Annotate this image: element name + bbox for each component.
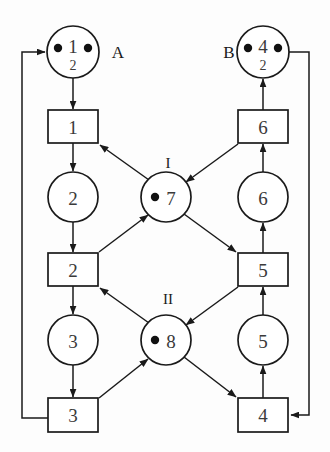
place-1[interactable]: 1 2 [47,26,99,78]
place-3-label: 3 [68,331,78,352]
label-B: B [223,43,234,62]
transition-2[interactable]: 2 [48,253,98,286]
place-8-label: 8 [166,331,176,352]
arc-transition6-place7 [186,144,238,182]
place-1-token-left [54,44,62,52]
place-layer: 1 2 2 3 4 2 [47,26,289,365]
arc-transition5-place8 [186,287,238,325]
place-7[interactable]: 7 [141,172,191,222]
place-2[interactable]: 2 [48,172,98,222]
place-4-weight: 2 [260,58,267,73]
transition-4-label: 4 [258,405,268,426]
transition-3[interactable]: 3 [48,398,98,432]
place-1-weight: 2 [70,58,77,73]
transition-4[interactable]: 4 [238,398,288,432]
petri-net-diagram: 1 2 3 4 5 6 [0,0,330,452]
place-6[interactable]: 6 [238,172,288,222]
arc-place7-transition5 [184,214,236,252]
label-subnet-II: II [163,291,173,307]
place-1-token-right [84,44,92,52]
place-5-label: 5 [258,331,268,352]
place-4-token-left [244,44,252,52]
arc-place4-transition4 [289,52,309,415]
arc-transition3-place1 [22,52,48,418]
place-8-token [151,336,159,344]
label-subnet-I: I [166,155,171,171]
petri-net-canvas: 1 2 3 4 5 6 [0,0,330,452]
place-8[interactable]: 8 [141,315,191,365]
transition-2-label: 2 [68,260,78,281]
transition-1[interactable]: 1 [48,110,98,143]
transition-1-label: 1 [68,117,78,138]
transition-5-label: 5 [258,260,268,281]
arc-transition3-place8 [99,359,148,398]
place-7-token [151,193,159,201]
place-7-label: 7 [166,188,176,209]
arc-place8-transition4 [184,357,236,397]
arc-transition2-place7 [99,215,148,252]
label-A: A [112,43,125,62]
place-4-label: 4 [258,36,268,57]
place-3[interactable]: 3 [48,315,98,365]
transition-6[interactable]: 6 [238,110,288,143]
place-5[interactable]: 5 [238,315,288,365]
transition-3-label: 3 [68,405,78,426]
transition-5[interactable]: 5 [238,253,288,286]
arc-place8-transition2 [100,288,149,323]
transition-6-label: 6 [258,117,268,138]
place-4-token-right [274,44,282,52]
place-6-label: 6 [258,188,268,209]
arc-place7-transition1 [100,145,149,180]
place-1-label: 1 [68,36,78,57]
place-4[interactable]: 4 2 [237,26,289,78]
place-2-label: 2 [68,188,78,209]
